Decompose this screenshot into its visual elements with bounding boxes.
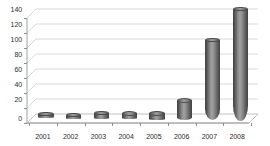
- x-tick-2008: [223, 123, 224, 126]
- x-tick-end: [251, 123, 252, 126]
- y-tick-mark-40: [24, 93, 27, 94]
- x-tick-label-2005: 2005: [140, 133, 168, 140]
- y-tick-mark-140: [24, 18, 27, 19]
- y-tick-mark-120: [24, 33, 27, 34]
- x-tick-label-2006: 2006: [168, 133, 196, 140]
- y-tick-mark-80: [24, 63, 27, 64]
- x-tick-label-2002: 2002: [57, 133, 85, 140]
- x-tick-2006: [168, 123, 169, 126]
- x-tick-2001: [29, 123, 30, 126]
- x-tick-label-2004: 2004: [112, 133, 140, 140]
- x-axis-labels: 20012002200320042005200620072008: [0, 0, 270, 146]
- y-tick-mark-20: [24, 108, 27, 109]
- bar-chart: 140 120 100 80 60 40 20 0 20012002200320…: [0, 0, 270, 146]
- x-tick-2002: [57, 123, 58, 126]
- y-tick-mark-0: [24, 123, 27, 124]
- x-tick-2004: [112, 123, 113, 126]
- x-tick-2005: [140, 123, 141, 126]
- x-tick-label-2003: 2003: [85, 133, 113, 140]
- x-tick-label-2001: 2001: [29, 133, 57, 140]
- x-tick-label-2008: 2008: [223, 133, 251, 140]
- x-tick-2007: [196, 123, 197, 126]
- y-tick-mark-60: [24, 78, 27, 79]
- y-tick-mark-100: [24, 48, 27, 49]
- x-tick-2003: [85, 123, 86, 126]
- x-tick-label-2007: 2007: [196, 133, 224, 140]
